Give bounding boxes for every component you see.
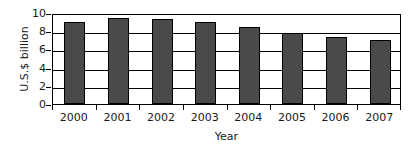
- x-tick-mark: [357, 105, 358, 110]
- bar: [108, 18, 129, 104]
- x-tick-mark: [139, 105, 140, 110]
- y-tick-label: 6: [28, 45, 46, 55]
- x-tick-mark: [270, 105, 271, 110]
- y-axis-tick-labels: 0246810: [28, 0, 46, 152]
- x-tick-label: 2003: [183, 111, 227, 125]
- y-tick-label: 2: [28, 82, 46, 92]
- x-tick-label: 2005: [270, 111, 314, 125]
- x-tick-mark: [314, 105, 315, 110]
- x-tick-mark: [183, 105, 184, 110]
- bar: [326, 37, 347, 104]
- x-tick-label: 2000: [52, 111, 96, 125]
- x-tick-label: 2001: [95, 111, 139, 125]
- bar-chart-figure: U.S.$ billion 0246810 200020012002200320…: [0, 0, 420, 152]
- bar: [152, 19, 173, 104]
- x-tick-mark: [400, 105, 401, 110]
- y-tick-mark: [46, 14, 51, 15]
- x-tick-mark: [96, 105, 97, 110]
- x-tick-label: 2004: [226, 111, 270, 125]
- y-tick-mark: [46, 87, 51, 88]
- bar: [239, 27, 260, 104]
- y-tick-label: 8: [28, 27, 46, 37]
- bar-series: [53, 15, 400, 104]
- x-tick-label: 2002: [139, 111, 183, 125]
- y-tick-mark: [46, 50, 51, 51]
- bar: [282, 33, 303, 104]
- x-axis-tick-labels: 20002001200220032004200520062007: [52, 111, 401, 127]
- x-axis-title: Year: [52, 130, 401, 144]
- plot-area: [52, 14, 401, 105]
- y-tick-label: 0: [28, 100, 46, 110]
- bar: [64, 22, 85, 104]
- x-tick-label: 2007: [357, 111, 401, 125]
- y-tick-label: 4: [28, 64, 46, 74]
- x-tick-mark: [227, 105, 228, 110]
- y-tick-mark: [46, 105, 51, 106]
- x-tick-label: 2006: [314, 111, 358, 125]
- y-tick-mark: [46, 69, 51, 70]
- x-tick-mark: [52, 105, 53, 110]
- bar: [195, 22, 216, 104]
- y-tick-label: 10: [28, 9, 46, 19]
- y-tick-mark: [46, 32, 51, 33]
- bar: [370, 40, 391, 104]
